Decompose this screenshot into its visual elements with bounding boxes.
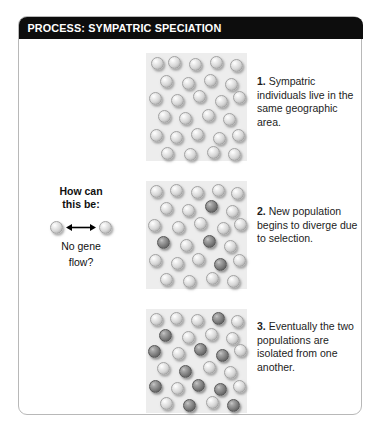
dark-sphere-icon <box>159 329 172 342</box>
light-sphere-icon <box>150 129 163 142</box>
gene-flow-question-line-2: this be: <box>29 198 133 211</box>
light-sphere-icon <box>172 347 185 360</box>
light-sphere-icon <box>182 204 195 217</box>
dark-sphere-icon <box>205 200 218 213</box>
step-text-3: Eventually the two populations are isola… <box>257 320 354 373</box>
panel-3-scatter <box>146 309 247 413</box>
gene-flow-answer-line-2: flow? <box>29 256 133 269</box>
light-sphere-icon <box>151 57 164 70</box>
light-sphere-icon <box>210 56 223 69</box>
double-headed-arrow-icon <box>66 222 96 233</box>
light-sphere-icon <box>160 75 173 88</box>
population-panel-3 <box>146 309 247 413</box>
light-sphere-icon <box>203 361 216 374</box>
light-sphere-icon <box>161 147 174 160</box>
step-caption-2: 2. New population begins to diverge due … <box>257 205 361 246</box>
light-sphere-icon <box>148 219 161 232</box>
light-sphere-icon <box>217 222 230 235</box>
population-panel-1 <box>146 53 247 161</box>
gene-flow-answer-line-1: No gene <box>29 240 133 253</box>
figure-title-bar: PROCESS: SYMPATRIC SPECIATION <box>19 17 363 39</box>
light-sphere-icon <box>149 254 162 267</box>
light-sphere-icon <box>223 113 236 126</box>
light-sphere-icon <box>150 185 163 198</box>
dark-sphere-icon <box>183 399 196 412</box>
step-number-2: 2. <box>257 205 266 217</box>
light-sphere-icon <box>183 275 196 288</box>
light-sphere-icon <box>193 90 206 103</box>
dark-sphere-icon <box>214 383 227 396</box>
light-sphere-icon <box>170 312 183 325</box>
light-sphere-icon <box>228 148 241 161</box>
light-sphere-icon <box>160 397 173 410</box>
light-sphere-icon <box>226 332 239 345</box>
gene-flow-annotation: How can this be: No gene flow? <box>29 185 133 269</box>
light-sphere-icon <box>158 110 171 123</box>
light-sphere-icon <box>168 56 181 69</box>
light-sphere-icon <box>232 129 245 142</box>
step-caption-3: 3. Eventually the two populations are is… <box>257 320 361 374</box>
dark-sphere-icon <box>157 236 170 249</box>
light-sphere-icon <box>234 344 247 357</box>
light-sphere-icon <box>204 74 217 87</box>
dark-sphere-icon <box>227 399 240 412</box>
light-sphere-icon <box>205 328 218 341</box>
figure-card: PROCESS: SYMPATRIC SPECIATION 1. Sympatr… <box>18 16 362 415</box>
light-sphere-icon <box>194 217 207 230</box>
dark-sphere-icon <box>179 365 192 378</box>
light-sphere-icon <box>99 221 112 234</box>
light-sphere-icon <box>212 184 225 197</box>
step-number-3: 3. <box>257 320 266 332</box>
light-sphere-icon <box>224 366 237 379</box>
panel-2-scatter <box>146 181 247 289</box>
light-sphere-icon <box>224 240 237 253</box>
step-number-1: 1. <box>257 75 266 87</box>
dark-sphere-icon <box>214 258 227 271</box>
population-panel-2 <box>146 181 247 289</box>
light-sphere-icon <box>171 382 184 395</box>
light-sphere-icon <box>160 202 173 215</box>
dark-sphere-icon <box>149 380 162 393</box>
light-sphere-icon <box>234 218 247 231</box>
light-sphere-icon <box>202 109 215 122</box>
light-sphere-icon <box>226 205 239 218</box>
light-sphere-icon <box>231 315 244 328</box>
light-sphere-icon <box>231 187 244 200</box>
step-text-2: New population begins to diverge due to … <box>257 205 357 244</box>
light-sphere-icon <box>170 131 183 144</box>
dark-sphere-icon <box>212 312 225 325</box>
light-sphere-icon <box>233 91 246 104</box>
light-sphere-icon <box>191 314 204 327</box>
light-sphere-icon <box>172 221 185 234</box>
light-sphere-icon <box>149 92 162 105</box>
page-title: PROCESS: SYMPATRIC SPECIATION <box>19 22 221 34</box>
light-sphere-icon <box>206 396 219 409</box>
dark-sphere-icon <box>192 379 205 392</box>
light-sphere-icon <box>192 253 205 266</box>
light-sphere-icon <box>50 221 63 234</box>
light-sphere-icon <box>191 186 204 199</box>
step-caption-1: 1. Sympatric individuals live in the sam… <box>257 75 361 129</box>
light-sphere-icon <box>157 362 170 375</box>
light-sphere-icon <box>191 128 204 141</box>
light-sphere-icon <box>180 239 193 252</box>
light-sphere-icon <box>182 77 195 90</box>
light-sphere-icon <box>171 257 184 270</box>
light-sphere-icon <box>171 94 184 107</box>
step-text-1: Sympatric individuals live in the same g… <box>257 75 353 128</box>
dark-sphere-icon <box>216 349 229 362</box>
dark-sphere-icon <box>194 343 207 356</box>
light-sphere-icon <box>215 95 228 108</box>
gene-flow-question-line-1: How can <box>29 185 133 198</box>
light-sphere-icon <box>206 272 219 285</box>
light-sphere-icon <box>182 331 195 344</box>
light-sphere-icon <box>184 148 197 161</box>
light-sphere-icon <box>207 146 220 159</box>
light-sphere-icon <box>225 78 238 91</box>
light-sphere-icon <box>170 184 183 197</box>
light-sphere-icon <box>213 132 226 145</box>
light-sphere-icon <box>150 313 163 326</box>
light-sphere-icon <box>189 58 202 71</box>
panel-1-scatter <box>146 53 247 161</box>
gene-flow-arrow-row <box>29 217 133 237</box>
